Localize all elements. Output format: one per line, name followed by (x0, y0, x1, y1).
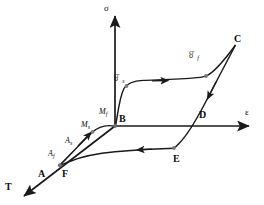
marker-Ms-dot (91, 130, 95, 134)
transition-label-ms: Ms (81, 121, 90, 129)
transition-label-mf-base: M (99, 107, 106, 116)
point-label-c: C (234, 34, 241, 44)
stress-label-sigma-f-cr-sub: f (197, 55, 199, 61)
transition-label-as-sub: s (70, 140, 72, 146)
point-label-e: E (173, 154, 180, 164)
stress-label-sigma-s-cr: σcrs (114, 75, 126, 83)
marker-sigma-f-cr-dot (204, 74, 208, 78)
transition-label-af-sub: f (53, 153, 55, 159)
point-label-f: F (62, 169, 68, 179)
stress-label-sigma-s-cr-sup: cr (114, 72, 119, 78)
point-label-b: B (119, 114, 126, 124)
return-direction-arrow (139, 149, 152, 150)
heating-direction-arrow (78, 134, 90, 146)
transition-label-ms-sub: s (88, 124, 90, 130)
axis-label-temperature: T (5, 182, 12, 192)
axis-group (24, 16, 249, 196)
transition-label-af: Af (48, 150, 55, 158)
stress-label-sigma-s-cr-sub: s (122, 78, 124, 84)
unloading-curve-c-to-e (174, 45, 235, 148)
unloading-curve-group (174, 45, 235, 148)
unloading-direction-arrow (209, 82, 217, 97)
marker-F-dot (58, 163, 62, 167)
transition-label-mf: Mf (99, 108, 107, 116)
loading-curve-group (116, 45, 236, 127)
return-curve-e-to-f (60, 148, 174, 165)
transition-label-ms-base: M (81, 120, 88, 129)
marker-E-dot (172, 146, 176, 150)
sma-diagram-figure: σ ε T A B C D E F Af As Ms Mf σcrs σcrf (0, 0, 264, 205)
return-curve-group (60, 148, 174, 165)
stress-label-sigma-f-cr-sup: cr (189, 49, 194, 55)
axis-label-stress: σ (104, 4, 109, 13)
loading-curve-b-to-c (116, 45, 236, 127)
marker-sigma-s-cr-dot (125, 84, 129, 88)
point-label-a: A (38, 169, 45, 179)
marker-B-dot (113, 124, 117, 128)
axis-label-strain: ε (245, 108, 249, 117)
transition-label-as: As (65, 137, 72, 145)
point-label-d: D (199, 110, 206, 120)
stress-label-sigma-f-cr: σcrf (189, 52, 200, 60)
